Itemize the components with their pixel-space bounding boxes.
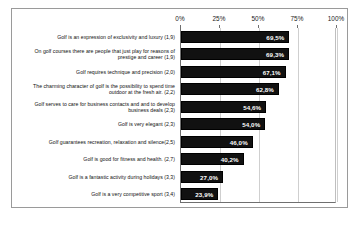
bar-value-label: 54,6% (243, 102, 261, 114)
x-axis-tick-label: 50% (251, 15, 264, 22)
bar-value-label: 69,5% (266, 32, 284, 44)
x-axis-tick-label: 25% (212, 15, 225, 22)
category-label: Golf guarantees recreation, relaxation a… (17, 139, 175, 145)
x-axis-tick-label: 100% (328, 15, 345, 22)
category-axis-labels: Golf is an expression of exclusivity and… (16, 28, 179, 203)
bar: 54,0% (181, 118, 265, 130)
category-label: On golf courses there are people that ju… (17, 48, 175, 60)
bar-value-label: 23,9% (195, 189, 213, 201)
bar: 46,0% (181, 136, 253, 148)
bar: 54,6% (181, 101, 266, 113)
bar-value-label: 62,8% (256, 84, 274, 96)
category-label: Golf is a fantastic activity during holi… (17, 174, 175, 180)
bar-value-label: 27,0% (200, 172, 218, 184)
x-axis-tick-label: 0% (175, 15, 184, 22)
bar-value-label: 46,0% (230, 137, 248, 149)
x-axis: 0%25%50%75%100% (180, 15, 337, 27)
bar-value-label: 67,1% (263, 67, 281, 79)
gridline (337, 28, 338, 202)
bar-value-label: 40,2% (221, 154, 239, 166)
category-label: Golf is good for fitness and health. (2,… (17, 156, 175, 162)
plot-area: 69,5%69,3%67,1%62,8%54,6%54,0%46,0%40,2%… (180, 28, 336, 203)
bar: 67,1% (181, 66, 286, 78)
x-axis-tick-label: 75% (290, 15, 303, 22)
category-label: Golf is very elegant (2,3) (17, 121, 175, 127)
category-label: Golf is an expression of exclusivity and… (17, 34, 175, 40)
chart-frame: 0%25%50%75%100% Golf is an expression of… (11, 8, 348, 208)
bar-value-label: 69,3% (266, 49, 284, 61)
category-label: Golf requires technique and precision (2… (17, 69, 175, 75)
bar: 62,8% (181, 83, 279, 95)
bar: 69,3% (181, 48, 289, 60)
bar: 23,9% (181, 188, 218, 200)
bar: 27,0% (181, 171, 223, 183)
bar: 69,5% (181, 31, 289, 43)
category-label: Golf is a very competitive sport (3,4) (17, 191, 175, 197)
category-label: Golf serves to care for business contact… (17, 101, 175, 113)
category-label: The charming character of golf is the po… (17, 83, 175, 95)
bar: 40,2% (181, 153, 244, 165)
gridline (298, 28, 299, 202)
bar-value-label: 54,0% (242, 119, 260, 131)
